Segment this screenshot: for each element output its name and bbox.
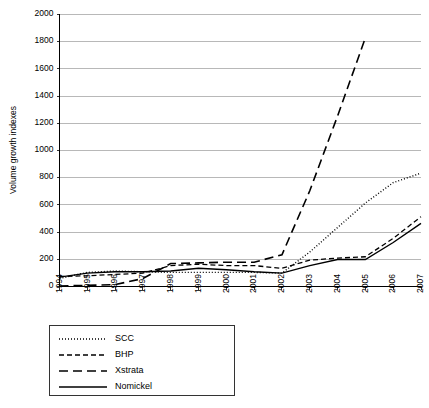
y-axis-title: Volume growth indexes	[8, 106, 18, 194]
x-tick-label: 1995	[82, 274, 92, 293]
y-tick-label: 1800	[35, 35, 54, 45]
legend-label-nomickel: Nomickel	[115, 381, 152, 391]
x-tick-label: 1999	[193, 274, 203, 293]
y-tick-label: 200	[39, 253, 53, 263]
legend-label-scc: SCC	[115, 333, 135, 343]
x-tick-label: 2002	[276, 274, 286, 293]
y-tick-label: 800	[39, 171, 53, 181]
chart-legend: SCCBHPXstrataNomickel	[50, 326, 235, 396]
legend-label-bhp: BHP	[115, 349, 134, 359]
x-tick-label: 2000	[221, 274, 231, 293]
y-tick-label: 2000	[35, 8, 54, 18]
series-line-xstrata	[60, 38, 366, 286]
x-tick-label: 2005	[360, 274, 370, 293]
x-tick-label: 2003	[304, 274, 314, 293]
series-line-nomickel	[60, 223, 422, 277]
y-tick-label: 1000	[35, 144, 54, 154]
line-chart: 0200400600800100012001400160018002000 19…	[0, 0, 429, 408]
y-tick-label: 400	[39, 226, 53, 236]
x-axis-ticks: 1994199519961997199819992000200120022003…	[54, 274, 426, 293]
y-tick-label: 1200	[35, 117, 54, 127]
y-tick-label: 600	[39, 199, 53, 209]
series-line-bhp	[60, 217, 422, 277]
gridlines	[60, 15, 422, 260]
x-tick-label: 2006	[387, 274, 397, 293]
y-tick-label: 1400	[35, 90, 54, 100]
x-tick-label: 2001	[248, 274, 258, 293]
chart-container: 0200400600800100012001400160018002000 19…	[0, 0, 429, 408]
x-tick-label: 1998	[165, 274, 175, 293]
legend-label-xstrata: Xstrata	[115, 365, 144, 375]
y-axis-ticks: 0200400600800100012001400160018002000	[35, 8, 60, 290]
x-tick-label: 2004	[332, 274, 342, 293]
x-tick-label: 2007	[415, 274, 425, 293]
y-tick-label: 1600	[35, 63, 54, 73]
data-series	[60, 38, 422, 286]
